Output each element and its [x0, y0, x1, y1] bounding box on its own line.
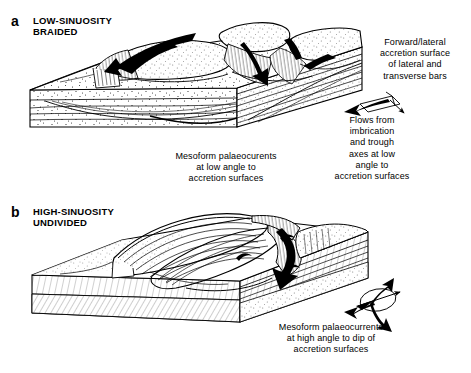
panel-a-letter: a — [11, 14, 19, 28]
panel-b-title: HIGH-SINUOSITY UNDIVIDED — [33, 206, 114, 228]
panel-b-block — [32, 214, 368, 322]
caption-accretion-surface: Forward/lateral accretion surface of lat… — [360, 37, 470, 82]
panel-b-letter: b — [11, 205, 20, 219]
palaeocurrent-rose-low-angle-symbol — [344, 92, 404, 116]
caption-mesoform-low-angle: Mesoform palaeocurents at low angle to a… — [156, 151, 296, 185]
panel-a-title: LOW-SINUOSITY BRAIDED — [33, 15, 112, 37]
panel-a-block — [30, 23, 362, 127]
figure-container: a LOW-SINUOSITY BRAIDED b HIGH-SINUOSITY… — [0, 0, 471, 373]
caption-mesoform-high-angle: Mesoform palaeocurrents at high angle to… — [248, 322, 414, 356]
caption-flows-from: Flows from imbrication and trough axes a… — [307, 115, 437, 182]
